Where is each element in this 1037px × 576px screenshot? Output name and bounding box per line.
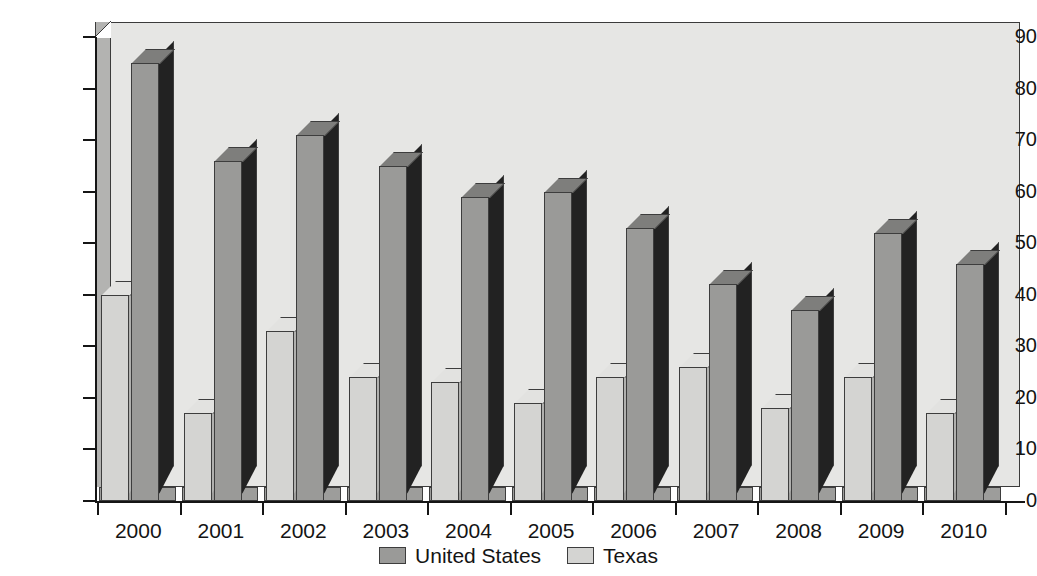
bar-texas-2009	[844, 377, 872, 501]
bar-front-face	[679, 367, 707, 501]
x-tick	[1005, 503, 1007, 515]
y-tick-20	[83, 397, 96, 399]
bar-front-face	[349, 377, 377, 501]
bar-us-2001	[214, 161, 242, 501]
y-tick-40	[83, 294, 96, 296]
bar-front-face	[266, 331, 294, 501]
bar-front-face	[514, 403, 542, 501]
bar-us-2004	[461, 197, 489, 501]
bar-front-face	[101, 295, 129, 501]
y-tick-label: 70	[961, 129, 1037, 149]
y-tick-80	[83, 88, 96, 90]
bar-front-face	[791, 310, 819, 501]
y-tick-0	[83, 500, 96, 502]
execution-bar-chart: Number of Executions 0102030405060708090…	[0, 0, 1037, 576]
y-axis-line	[95, 37, 97, 502]
bar-us-2006	[626, 228, 654, 501]
bar-front-face	[544, 192, 572, 501]
legend-item-tx[interactable]: Texas	[567, 545, 658, 566]
bar-us-2010	[956, 264, 984, 501]
bar-front-face	[626, 228, 654, 501]
y-tick-50	[83, 242, 96, 244]
bar-front-face	[431, 382, 459, 501]
bar-front-face	[379, 166, 407, 501]
bar-texas-2004	[431, 382, 459, 501]
bar-front-face	[461, 197, 489, 501]
bar-us-2003	[379, 166, 407, 501]
bar-us-2008	[791, 310, 819, 501]
bar-side-face	[819, 288, 834, 494]
bar-texas-2006	[596, 377, 624, 501]
bar-us-2002	[296, 135, 324, 501]
x-tick	[592, 503, 594, 515]
bar-texas-2002	[266, 331, 294, 501]
x-tick	[345, 503, 347, 515]
x-tick	[757, 503, 759, 515]
bar-front-face	[956, 264, 984, 501]
y-tick-label: 90	[961, 26, 1037, 46]
bar-front-face	[296, 135, 324, 501]
y-tick-90	[83, 36, 96, 38]
bar-side-face	[572, 170, 587, 494]
y-tick-label: 60	[961, 181, 1037, 201]
bar-texas-2000	[101, 295, 129, 501]
bar-texas-2005	[514, 403, 542, 501]
bar-side-face	[242, 139, 257, 494]
x-tick	[427, 503, 429, 515]
x-tick	[675, 503, 677, 515]
bar-front-face	[709, 284, 737, 501]
y-tick-30	[83, 345, 96, 347]
legend-item-us[interactable]: United States	[379, 545, 541, 566]
bar-side-face	[159, 41, 174, 494]
bar-side-face	[407, 144, 422, 494]
bar-front-face	[926, 413, 954, 501]
legend-swatch-tx	[567, 547, 594, 564]
bar-us-2007	[709, 284, 737, 501]
bar-front-face	[596, 377, 624, 501]
bar-side-face	[902, 211, 917, 494]
x-tick	[180, 503, 182, 515]
y-tick-60	[83, 191, 96, 193]
bar-us-2009	[874, 233, 902, 501]
x-tick-label-2010: 2010	[909, 519, 1019, 543]
x-tick	[97, 503, 99, 515]
bar-front-face	[844, 377, 872, 501]
y-tick-10	[83, 448, 96, 450]
x-tick	[922, 503, 924, 515]
legend-label: Texas	[603, 545, 658, 566]
x-tick	[262, 503, 264, 515]
bar-side-face	[737, 262, 752, 494]
legend-label: United States	[415, 545, 541, 566]
bar-us-2005	[544, 192, 572, 501]
bar-side-face	[489, 175, 504, 494]
bar-front-face	[214, 161, 242, 501]
bar-front-face	[131, 63, 159, 501]
x-tick	[510, 503, 512, 515]
bar-front-face	[874, 233, 902, 501]
bar-side-face	[654, 206, 669, 494]
bar-front-face	[761, 408, 789, 501]
chart-legend: United StatesTexas	[0, 545, 1037, 566]
x-tick	[840, 503, 842, 515]
y-tick-label: 80	[961, 78, 1037, 98]
legend-swatch-us	[379, 547, 406, 564]
bar-texas-2007	[679, 367, 707, 501]
bar-texas-2003	[349, 377, 377, 501]
bar-texas-2001	[184, 413, 212, 501]
bar-us-2000	[131, 63, 159, 501]
bar-side-face	[984, 242, 999, 494]
bar-texas-2010	[926, 413, 954, 501]
y-tick-70	[83, 139, 96, 141]
x-axis-line	[95, 501, 1025, 503]
bar-texas-2008	[761, 408, 789, 501]
bar-front-face	[184, 413, 212, 501]
bar-side-face	[324, 113, 339, 494]
